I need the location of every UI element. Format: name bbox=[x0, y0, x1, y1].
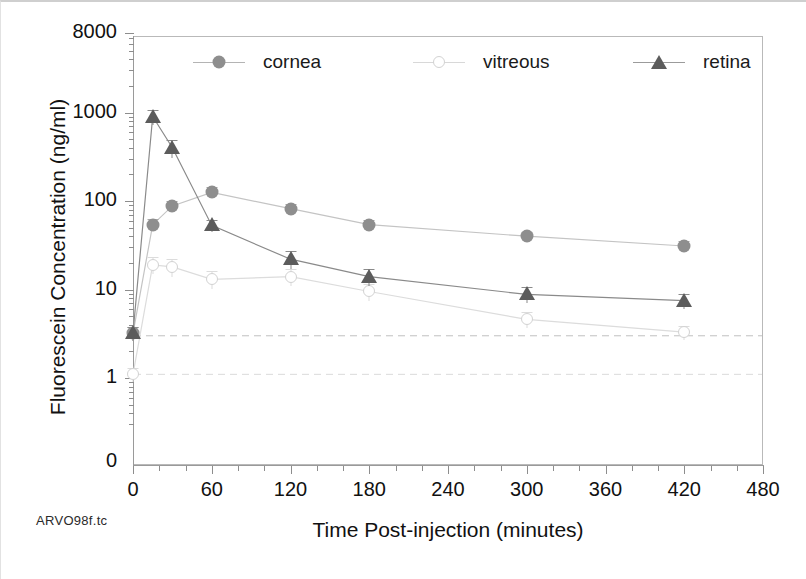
y-tick-label-text: 100 bbox=[84, 188, 117, 211]
x-tick-label: 300 bbox=[510, 478, 543, 501]
x-tick-minor bbox=[579, 466, 580, 471]
legend-label: retina bbox=[703, 51, 751, 73]
x-tick-minor bbox=[264, 466, 265, 471]
y-tick-minor bbox=[129, 263, 134, 264]
y-tick-minor bbox=[129, 336, 134, 337]
y-tick-minor bbox=[129, 303, 134, 304]
y-tick-minor bbox=[129, 405, 134, 406]
legend-line bbox=[193, 62, 245, 63]
x-tick-label: 60 bbox=[201, 478, 223, 501]
x-tick-major bbox=[448, 466, 449, 474]
legend-marker-open-circle bbox=[433, 56, 445, 68]
x-tick-minor bbox=[343, 466, 344, 471]
legend-marker-filled-circle bbox=[213, 56, 226, 69]
x-tick-label: 0 bbox=[127, 478, 138, 501]
y-tick-minor bbox=[129, 298, 134, 299]
y-tick-major bbox=[125, 378, 134, 379]
y-tick-major bbox=[125, 33, 134, 34]
x-tick-minor bbox=[317, 466, 318, 471]
x-tick-major bbox=[133, 466, 134, 474]
x-tick-minor bbox=[422, 466, 423, 471]
y-tick-minor bbox=[129, 236, 134, 237]
figure-container: Fluorescein Concentration (ng/ml) 110100… bbox=[0, 0, 806, 579]
legend-line bbox=[413, 62, 465, 63]
y-tick-minor bbox=[129, 309, 134, 310]
x-tick-minor bbox=[632, 466, 633, 471]
x-tick-minor bbox=[474, 466, 475, 471]
y-tick-minor bbox=[129, 121, 134, 122]
y-tick-minor bbox=[129, 398, 134, 399]
y-axis-title: Fluorescein Concentration (ng/ml) bbox=[46, 47, 70, 467]
x-tick-label: 420 bbox=[668, 478, 701, 501]
figure-caption: ARVO98f.tc bbox=[36, 513, 107, 528]
y-axis-zero-label-text: 0 bbox=[106, 449, 117, 472]
y-tick-label-text: 1 bbox=[106, 365, 117, 388]
y-tick-minor bbox=[129, 294, 134, 295]
y-axis-spine bbox=[133, 36, 134, 466]
y-tick-minor bbox=[129, 424, 134, 425]
x-tick-major bbox=[291, 466, 292, 474]
y-tick-minor bbox=[129, 316, 134, 317]
x-tick-major bbox=[606, 466, 607, 474]
x-tick-label: 180 bbox=[353, 478, 386, 501]
marker-glyph bbox=[651, 55, 667, 69]
legend-item-vitreous[interactable]: vitreous bbox=[413, 48, 550, 76]
x-axis-title: Time Post-injection (minutes) bbox=[133, 518, 763, 542]
x-tick-label: 120 bbox=[274, 478, 307, 501]
y-tick-major bbox=[125, 290, 134, 291]
legend: corneavitreousretina bbox=[133, 48, 763, 78]
y-tick-minor bbox=[129, 132, 134, 133]
y-tick-label-text: 1000 bbox=[73, 100, 118, 123]
marker-glyph bbox=[213, 56, 226, 69]
legend-item-retina[interactable]: retina bbox=[633, 48, 751, 76]
y-tick-minor bbox=[129, 210, 134, 211]
plot-frame bbox=[133, 36, 763, 465]
x-tick-major bbox=[527, 466, 528, 474]
y-tick-minor bbox=[129, 205, 134, 206]
y-tick-minor bbox=[129, 148, 134, 149]
x-tick-label: 240 bbox=[431, 478, 464, 501]
x-tick-minor bbox=[737, 466, 738, 471]
y-tick-major bbox=[125, 201, 134, 202]
legend-label: cornea bbox=[263, 51, 321, 73]
y-tick-minor bbox=[129, 215, 134, 216]
y-tick-major bbox=[125, 113, 134, 114]
y-tick-minor bbox=[129, 174, 134, 175]
x-tick-minor bbox=[186, 466, 187, 471]
y-tick-minor bbox=[129, 392, 134, 393]
y-tick-minor bbox=[129, 159, 134, 160]
x-tick-major bbox=[763, 466, 764, 474]
y-tick-label-text: 10 bbox=[95, 277, 117, 300]
legend-marker-filled-triangle bbox=[651, 55, 667, 69]
y-tick-minor bbox=[129, 86, 134, 87]
y-tick-minor bbox=[129, 38, 134, 39]
legend-label: vitreous bbox=[483, 51, 550, 73]
x-tick-major bbox=[212, 466, 213, 474]
y-tick-minor bbox=[129, 139, 134, 140]
x-tick-minor bbox=[238, 466, 239, 471]
x-tick-label: 480 bbox=[746, 478, 779, 501]
y-tick-minor bbox=[129, 228, 134, 229]
legend-item-cornea[interactable]: cornea bbox=[193, 48, 321, 76]
y-tick-minor bbox=[129, 247, 134, 248]
y-tick-minor bbox=[129, 325, 134, 326]
y-tick-label-text: 8000 bbox=[73, 20, 118, 43]
y-tick-minor bbox=[129, 117, 134, 118]
x-tick-minor bbox=[658, 466, 659, 471]
x-tick-minor bbox=[711, 466, 712, 471]
y-tick-minor bbox=[129, 221, 134, 222]
x-tick-minor bbox=[501, 466, 502, 471]
y-tick-minor bbox=[129, 382, 134, 383]
marker-glyph bbox=[433, 56, 445, 68]
y-tick-minor bbox=[129, 351, 134, 352]
x-tick-label: 360 bbox=[589, 478, 622, 501]
y-tick-minor bbox=[129, 387, 134, 388]
legend-line bbox=[633, 62, 685, 63]
x-tick-major bbox=[369, 466, 370, 474]
y-tick-minor bbox=[129, 44, 134, 45]
x-tick-minor bbox=[553, 466, 554, 471]
x-tick-minor bbox=[396, 466, 397, 471]
y-tick-minor bbox=[129, 126, 134, 127]
x-tick-major bbox=[684, 466, 685, 474]
x-tick-minor bbox=[159, 466, 160, 471]
